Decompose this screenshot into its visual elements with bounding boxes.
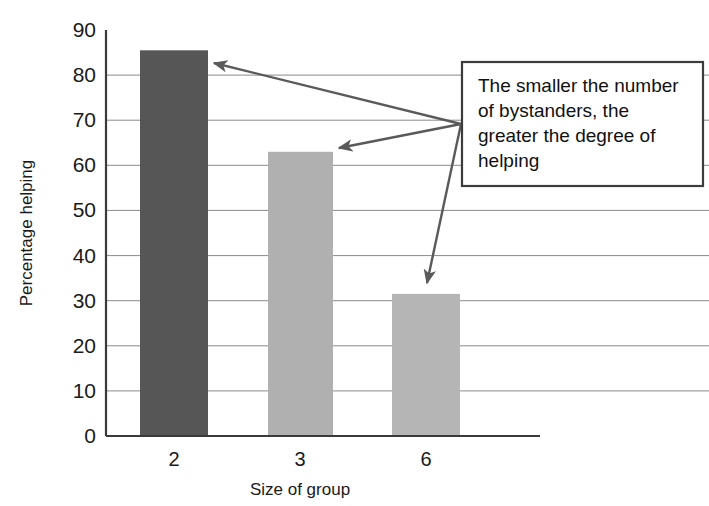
y-tick-20: 20 (73, 334, 96, 357)
arrow-to-bar-2 (214, 63, 461, 124)
y-tick-10: 10 (73, 379, 96, 402)
annotation-line-3: greater the degree of (478, 125, 656, 146)
y-tick-80: 80 (73, 63, 96, 86)
bar-group-3[interactable] (268, 152, 333, 436)
y-tick-90: 90 (73, 18, 96, 41)
y-tick-70: 70 (73, 108, 96, 131)
annotation-arrows (214, 63, 461, 283)
arrow-to-bar-6 (427, 124, 461, 283)
x-tick-6: 6 (420, 448, 431, 470)
x-tick-3: 3 (294, 448, 305, 470)
bar-chart: 90 80 70 60 50 40 30 20 10 0 2 3 6 Perce… (0, 0, 709, 506)
y-tick-30: 30 (73, 289, 96, 312)
y-tick-0: 0 (84, 424, 96, 447)
annotation-callout[interactable]: The smaller the number of bystanders, th… (462, 62, 703, 186)
x-tick-labels: 2 3 6 (168, 448, 431, 470)
annotation-line-2: of bystanders, the (478, 100, 629, 121)
y-tick-50: 50 (73, 198, 96, 221)
arrow-to-bar-3 (339, 124, 461, 148)
chart-figure: 90 80 70 60 50 40 30 20 10 0 2 3 6 Perce… (0, 0, 709, 506)
x-axis-title: Size of group (250, 480, 350, 499)
annotation-line-4: helping (478, 150, 539, 171)
y-tick-40: 40 (73, 244, 96, 267)
y-axis-title: Percentage helping (17, 160, 36, 307)
x-tick-2: 2 (168, 448, 179, 470)
y-tick-labels: 90 80 70 60 50 40 30 20 10 0 (73, 18, 96, 447)
annotation-line-1: The smaller the number (478, 75, 679, 96)
bar-group-6[interactable] (392, 294, 460, 436)
y-tick-60: 60 (73, 153, 96, 176)
bar-group-2[interactable] (140, 50, 208, 436)
bars (140, 50, 460, 436)
